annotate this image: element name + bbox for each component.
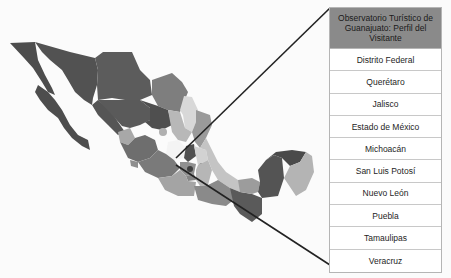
table-row: Veracruz	[330, 250, 441, 272]
state-aguascalientes	[159, 128, 167, 136]
table-row: Puebla	[330, 205, 441, 227]
callout-line-top	[176, 8, 330, 158]
state-tabasco	[238, 178, 260, 194]
table-row: Tamaulipas	[330, 227, 441, 249]
state-campeche	[258, 155, 284, 198]
table-row: Michoacán	[330, 138, 441, 160]
table-row: Jalisco	[330, 94, 441, 116]
table-row: Estado de México	[330, 116, 441, 138]
visitor-origin-table: Observatorio Turístico de Guanajuato: Pe…	[329, 7, 442, 273]
table-row: Querétaro	[330, 71, 441, 93]
table-row: San Luis Potosí	[330, 160, 441, 182]
table-header: Observatorio Turístico de Guanajuato: Pe…	[330, 8, 441, 49]
state-chihuahua	[95, 52, 152, 100]
table-row: Distrito Federal	[330, 49, 441, 71]
table-row: Nuevo León	[330, 183, 441, 205]
state-distrito-federal	[187, 166, 193, 172]
